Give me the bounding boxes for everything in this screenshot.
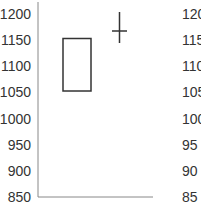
box-element [63,39,91,92]
chart-plot [0,0,201,214]
